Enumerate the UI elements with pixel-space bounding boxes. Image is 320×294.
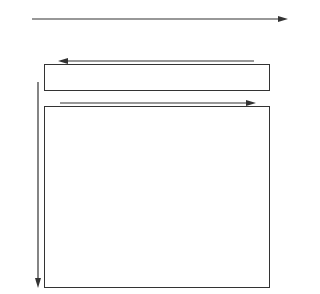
tile-grid xyxy=(44,106,270,288)
tile-strip xyxy=(44,64,270,91)
arrow-right-top-sequence xyxy=(30,14,288,24)
arrow-down-left xyxy=(33,82,43,288)
